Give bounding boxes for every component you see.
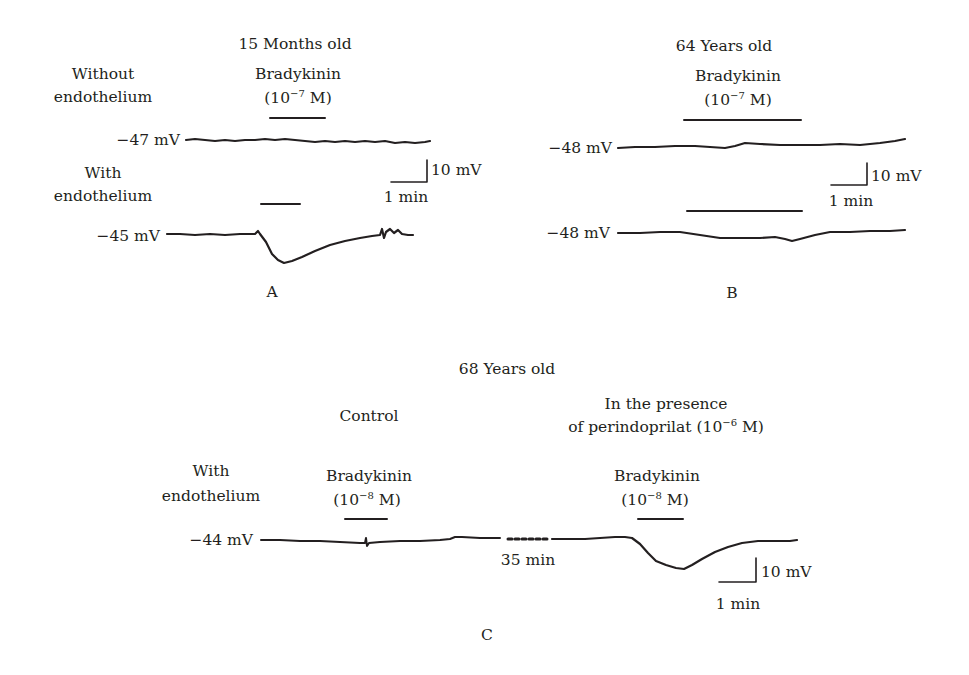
panel-c-control-label: Control: [339, 406, 398, 426]
panel-a-drug-concentration: (10−7 M): [264, 88, 331, 108]
panel-a-scale-voltage: 10 mV: [431, 160, 482, 180]
panel-c-condition-line-2: endothelium: [162, 486, 260, 506]
panel-c-scale-bar: [719, 558, 756, 582]
panel-c-resting-potential: −44 mV: [189, 530, 253, 550]
panel-a-resting-potential-1: −47 mV: [116, 130, 180, 150]
panel-c-treatment-drug-concentration: (10−8 M): [621, 490, 688, 510]
panel-a-title: 15 Months old: [238, 34, 351, 54]
panel-c-scale-time: 1 min: [716, 594, 760, 614]
panel-b-title: 64 Years old: [676, 36, 772, 56]
panel-a-condition-2-line-2: endothelium: [54, 186, 152, 206]
panel-b-trace-2: [618, 230, 905, 241]
panel-b-scale-voltage: 10 mV: [871, 166, 922, 186]
panel-a-condition-1-line-2: endothelium: [54, 87, 152, 107]
panel-c-scale-voltage: 10 mV: [761, 562, 812, 582]
panel-a-scale-time: 1 min: [384, 187, 428, 207]
panel-a-resting-potential-2: −45 mV: [96, 226, 160, 246]
panel-c-treatment-line-1: In the presence: [605, 394, 728, 414]
panel-c-control-drug-concentration: (10−8 M): [333, 490, 400, 510]
panel-b-drug-concentration: (10−7 M): [704, 90, 771, 110]
panel-b-trace-1: [618, 139, 905, 148]
panel-a-trace-with-endothelium: [167, 229, 413, 263]
panel-a-trace-without-endothelium: [186, 139, 430, 143]
panel-c-trace-control: [261, 537, 500, 546]
panel-a-condition-1-line-1: Without: [72, 64, 134, 84]
panel-b-label: B: [726, 283, 737, 303]
panel-b-resting-potential-2: −48 mV: [546, 223, 610, 243]
panel-c-title: 68 Years old: [459, 359, 555, 379]
panel-c-gap-label: 35 min: [501, 550, 555, 570]
panel-a-scale-bar: [391, 160, 427, 182]
panel-c-condition-line-1: With: [193, 461, 230, 481]
panel-c-treatment-line-2: of perindoprilat (10−6 M): [568, 417, 764, 437]
panel-c-treatment-drug-label: Bradykinin: [614, 466, 700, 486]
panel-a-drug-label: Bradykinin: [255, 64, 341, 84]
panel-b-scale-time: 1 min: [829, 191, 873, 211]
panel-a-condition-2-line-1: With: [85, 163, 122, 183]
panel-c-label: C: [481, 625, 493, 645]
panel-b-scale-bar: [831, 163, 867, 185]
panel-a-label: A: [266, 282, 277, 302]
panel-c-control-drug-label: Bradykinin: [326, 466, 412, 486]
panel-b-resting-potential-1: −48 mV: [548, 138, 612, 158]
panel-b-drug-label: Bradykinin: [695, 66, 781, 86]
